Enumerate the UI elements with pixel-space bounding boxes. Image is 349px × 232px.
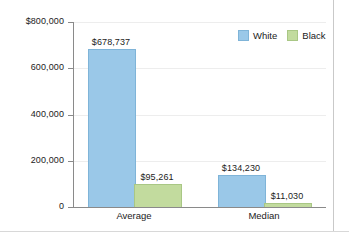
bar-median-black[interactable] — [264, 203, 312, 207]
legend-swatch-white-icon — [238, 30, 249, 41]
bar-average-white[interactable] — [88, 49, 136, 207]
y-axis-tick — [68, 22, 73, 23]
category-label-median: Median — [203, 210, 325, 221]
y-axis-tick-label: 200,000 — [31, 155, 64, 165]
y-axis-tick-label: 600,000 — [31, 62, 64, 72]
value-label-average-white: $678,737 — [79, 37, 143, 47]
y-axis-tick-label: $800,000 — [26, 16, 64, 26]
chart-legend: White Black — [238, 30, 326, 41]
legend-entry-black[interactable]: Black — [287, 30, 325, 41]
y-axis-tick — [68, 68, 73, 69]
bar-chart: 0200,000400,000600,000$800,000 $678,737$… — [0, 0, 349, 232]
plot-area — [74, 22, 326, 207]
legend-entry-white[interactable]: White — [238, 30, 277, 41]
bar-average-black[interactable] — [134, 184, 182, 207]
legend-swatch-black-icon — [287, 30, 298, 41]
y-axis-tick — [68, 207, 73, 208]
chart-frame-right-border — [333, 0, 334, 232]
chart-frame-bottom-border — [0, 231, 349, 232]
legend-label-white: White — [253, 30, 277, 41]
y-axis-tick — [68, 115, 73, 116]
y-axis-tick — [68, 161, 73, 162]
legend-label-black: Black — [302, 30, 325, 41]
x-axis-line — [73, 207, 326, 208]
value-label-average-black: $95,261 — [125, 172, 189, 182]
value-label-median-white: $134,230 — [209, 163, 273, 173]
category-label-average: Average — [73, 210, 195, 221]
value-label-median-black: $11,030 — [255, 191, 319, 201]
y-axis-tick-label: 400,000 — [31, 109, 64, 119]
y-axis-tick-label: 0 — [59, 201, 64, 211]
